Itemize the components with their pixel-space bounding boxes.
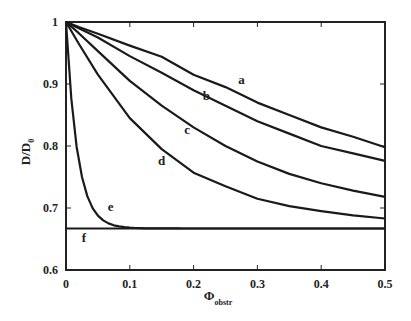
y-tick-label: 0.8 bbox=[43, 139, 58, 153]
y-tick-label: 1 bbox=[52, 15, 58, 29]
curve-label-b: b bbox=[203, 88, 210, 103]
curve-b bbox=[66, 22, 385, 161]
y-tick-label: 0.7 bbox=[43, 201, 58, 215]
x-tick-label: 0.4 bbox=[314, 277, 329, 291]
y-axis-title-sub: 0 bbox=[27, 139, 36, 143]
curve-e bbox=[66, 22, 385, 229]
curves bbox=[66, 22, 385, 229]
y-tick-label: 0.6 bbox=[43, 263, 58, 277]
y-axis-title-main: D/D bbox=[18, 143, 33, 165]
curve-label-c: c bbox=[184, 122, 190, 137]
x-tick-label: 0.3 bbox=[250, 277, 265, 291]
x-tick-label: 0.5 bbox=[378, 277, 393, 291]
y-tick-label: 0.9 bbox=[43, 77, 58, 91]
tick-labels: 00.10.20.30.40.50.60.70.80.91 bbox=[43, 15, 393, 291]
x-axis-title-sub: obstr bbox=[215, 298, 233, 307]
y-axis-title: D/D0 bbox=[18, 139, 36, 165]
curve-label-e: e bbox=[108, 199, 114, 214]
x-tick-label: 0.1 bbox=[122, 277, 137, 291]
curve-a bbox=[66, 22, 385, 147]
x-tick-label: 0.2 bbox=[186, 277, 201, 291]
curve-labels: abcdef bbox=[82, 72, 246, 245]
x-tick-label: 0 bbox=[63, 277, 69, 291]
x-axis-title-main: Φ bbox=[204, 288, 215, 303]
curve-label-a: a bbox=[238, 72, 245, 87]
curve-c bbox=[66, 22, 385, 197]
curve-label-d: d bbox=[158, 153, 166, 168]
curve-d bbox=[66, 22, 385, 219]
curve-label-f: f bbox=[82, 230, 87, 245]
line-chart: 00.10.20.30.40.50.60.70.80.91 abcdef Φob… bbox=[0, 0, 411, 321]
x-axis-title: Φobstr bbox=[204, 288, 233, 307]
